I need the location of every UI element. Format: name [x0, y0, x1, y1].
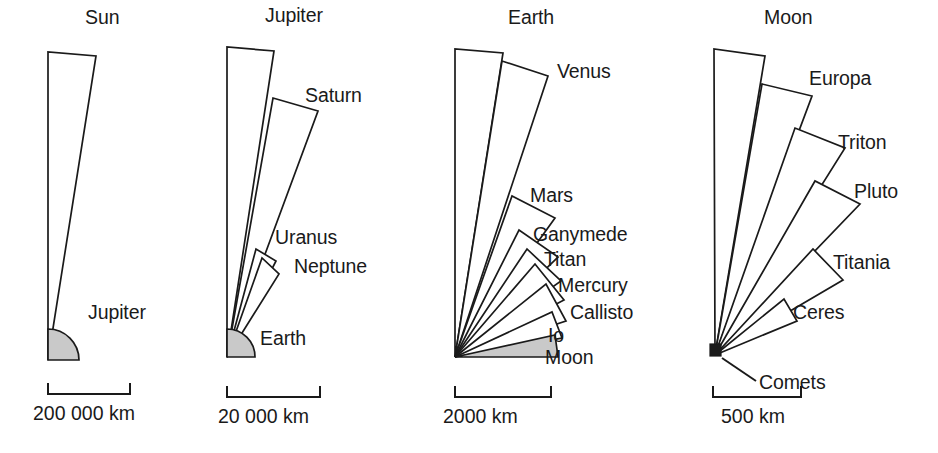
- label-moon-p3: Moon: [545, 348, 593, 368]
- label-earth-p3: Earth: [508, 8, 554, 28]
- label-europa: Europa: [809, 69, 871, 89]
- label-titan: Titan: [544, 250, 586, 270]
- scale-label-panel-3: 2000 km: [443, 407, 518, 427]
- panel-3-scalebar: [455, 386, 551, 398]
- scale-label-panel-4: 500 km: [721, 407, 785, 427]
- label-jupiter-p2: Jupiter: [265, 6, 323, 26]
- label-mercury: Mercury: [558, 276, 628, 296]
- panel-4-wedges: [710, 49, 860, 381]
- label-jupiter-p1: Jupiter: [88, 303, 146, 323]
- panel-2-scalebar: [227, 386, 320, 398]
- label-titania: Titania: [833, 253, 890, 273]
- label-saturn: Saturn: [305, 86, 362, 106]
- scale-label-panel-1: 200 000 km: [33, 404, 135, 424]
- wedge-earth-shaded: [227, 329, 255, 357]
- label-neptune: Neptune: [294, 257, 367, 277]
- solar-system-size-figure: Sun Jupiter 200 000 km Jupiter Saturn Ur…: [0, 0, 938, 453]
- label-ganymede: Ganymede: [533, 225, 628, 245]
- label-mars: Mars: [530, 186, 573, 206]
- label-io: Io: [548, 326, 564, 346]
- label-venus: Venus: [557, 62, 611, 82]
- panel-1-scalebar: [48, 383, 130, 395]
- label-ceres: Ceres: [793, 303, 845, 323]
- label-comets: Comets: [759, 373, 826, 393]
- wedge-comets: [710, 344, 721, 356]
- label-pluto: Pluto: [854, 182, 898, 202]
- comets-leader-line: [722, 358, 756, 381]
- label-callisto: Callisto: [570, 303, 633, 323]
- label-moon-p4: Moon: [764, 8, 812, 28]
- scale-label-panel-2: 20 000 km: [218, 407, 309, 427]
- wedge-jupiter-shaded: [48, 329, 79, 360]
- label-earth-p2: Earth: [260, 329, 306, 349]
- label-sun: Sun: [85, 8, 119, 28]
- label-triton: Triton: [838, 133, 887, 153]
- label-uranus: Uranus: [275, 228, 337, 248]
